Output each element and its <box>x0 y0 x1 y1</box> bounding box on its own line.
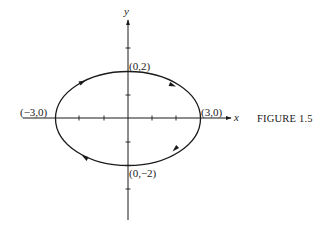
figure-caption: FIGURE 1.5 <box>257 113 313 124</box>
x-axis-label: x <box>234 112 239 123</box>
point-label-bottom: (0,−2) <box>129 168 156 179</box>
arrow-icon <box>82 156 89 162</box>
arrow-icon <box>79 81 86 86</box>
arrow-icon <box>173 145 180 152</box>
point-label-right: (3,0) <box>201 107 222 118</box>
y-axis-label: y <box>124 6 129 17</box>
point-label-left: (−3,0) <box>20 107 47 118</box>
direction-arrows <box>79 81 180 162</box>
point-label-top: (0,2) <box>129 61 150 72</box>
